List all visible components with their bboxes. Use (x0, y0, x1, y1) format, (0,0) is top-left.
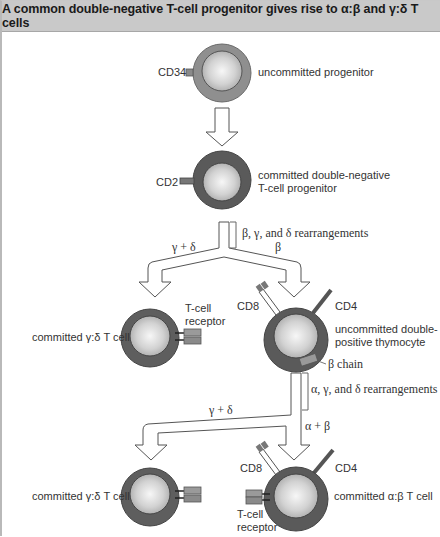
committed-dn-label-line1: committed double-negative (258, 169, 390, 181)
rearrangement-bracket-1 (230, 222, 236, 248)
committed-gd-1-label: committed γ:δ T cell (32, 331, 130, 343)
rearrangement-bracket-2 (302, 373, 308, 410)
cd2-marker-icon (180, 178, 194, 184)
tcr-label-2-line2: receptor (237, 521, 278, 533)
committed-gd-2-label: committed γ:δ T cell (32, 490, 130, 502)
cell-committed-gd-1: T-cell receptor committed γ:δ T cell (32, 302, 226, 367)
committed-dn-label-line2: T-cell progenitor (258, 182, 337, 194)
cell-committed-dn-progenitor: CD2 committed double-negative T-cell pro… (156, 151, 390, 209)
tcr-label-line1: T-cell (185, 302, 211, 314)
cd4-label-2: CD4 (335, 462, 357, 474)
rearrangements-label-2: α, γ, and δ rearrangements (311, 382, 438, 396)
cell-committed-gd-2: committed γ:δ T cell (32, 468, 201, 526)
cd4-label-1: CD4 (335, 300, 357, 312)
cd34-label: CD34 (158, 66, 186, 78)
diagram-canvas: CD34 uncommitted progenitor CD2 committe… (0, 0, 440, 537)
rearrangements-label-1: β, γ, and δ rearrangements (242, 226, 369, 240)
tcr-label-2-line1: T-cell (237, 508, 263, 520)
cd8-marker-icon (256, 281, 280, 315)
committed-ab-label: committed α:β T cell (334, 490, 433, 502)
cd2-label: CD2 (156, 176, 178, 188)
branch1-right-label: β (275, 240, 281, 254)
arrow-down-1 (206, 108, 238, 146)
cd34-marker-icon (186, 69, 193, 76)
cell-committed-ab: CD8 CD4 committed α:β T cell T-cell rece… (237, 441, 433, 533)
cd4-marker-icon (313, 290, 331, 313)
cd8-label-2: CD8 (240, 462, 262, 474)
cell-uncommitted-dp-thymocyte: CD8 CD4 uncommitted double- positive thy… (237, 281, 438, 372)
cd8-label-1: CD8 (237, 300, 259, 312)
branch1-left-label: γ + δ (171, 240, 196, 254)
dp-thymocyte-label-line1: uncommitted double- (335, 323, 438, 335)
cell-uncommitted-progenitor: CD34 uncommitted progenitor (158, 44, 374, 102)
dp-thymocyte-label-line2: positive thymocyte (335, 336, 425, 348)
uncommitted-progenitor-label: uncommitted progenitor (258, 66, 374, 78)
cd4-marker-icon (313, 450, 333, 474)
branch2-left-label: γ + δ (208, 403, 233, 417)
beta-chain-label: β chain (328, 357, 363, 371)
branch2-right-label: α + β (305, 419, 330, 433)
tcr-label-line2: receptor (185, 315, 226, 327)
